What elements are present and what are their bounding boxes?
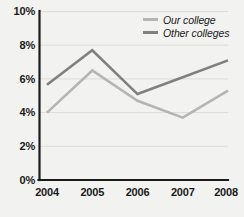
y-tick-label-0: 0% xyxy=(20,174,36,186)
legend-swatch-other-colleges-icon xyxy=(143,31,158,34)
x-tick-label-2008: 2008 xyxy=(214,186,238,198)
legend-label-our-college: Our college xyxy=(163,14,216,26)
chart-legend: Our college Other colleges xyxy=(143,13,229,39)
line-chart: 10% 8% 6% 4% 2% 0% 2004 2005 2006 2007 2… xyxy=(0,0,244,217)
legend-swatch-our-college-icon xyxy=(143,18,158,21)
y-tick-label-10: 10% xyxy=(14,5,35,17)
x-tick-label-2005: 2005 xyxy=(80,186,104,198)
y-tick-label-4: 4% xyxy=(20,106,36,118)
x-tick-label-2007: 2007 xyxy=(171,186,195,198)
legend-item-our-college: Our college xyxy=(143,13,229,26)
x-tick-label-2006: 2006 xyxy=(126,186,150,198)
y-tick-label-2: 2% xyxy=(20,140,36,152)
x-tick-label-2004: 2004 xyxy=(35,186,59,198)
legend-item-other-colleges: Other colleges xyxy=(143,26,229,39)
legend-label-other-colleges: Other colleges xyxy=(163,27,229,39)
y-tick-label-8: 8% xyxy=(20,39,36,51)
y-tick-label-6: 6% xyxy=(20,73,36,85)
